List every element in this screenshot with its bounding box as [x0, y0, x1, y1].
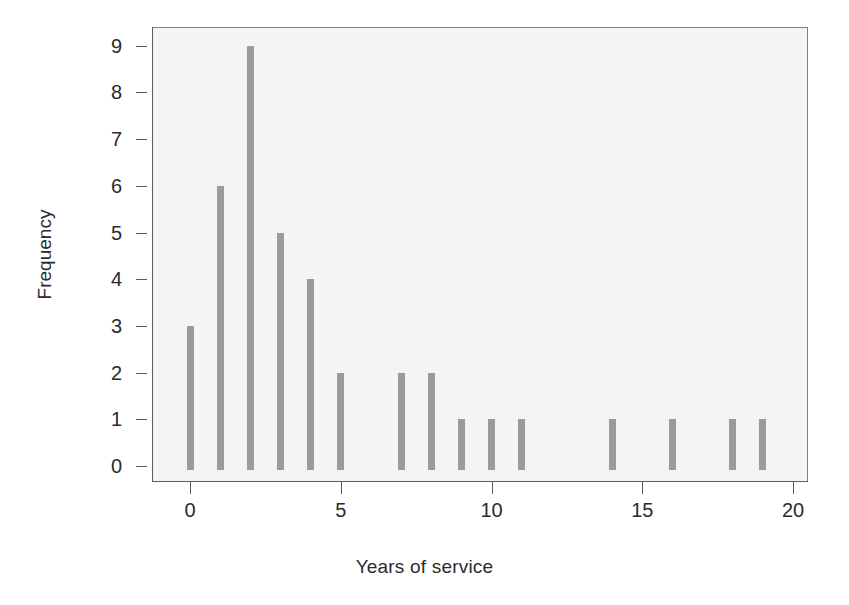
y-axis-tick-label: 4: [96, 269, 122, 289]
x-axis-line: [152, 481, 808, 482]
y-axis-tick: [136, 466, 147, 467]
x-axis-tick: [793, 482, 794, 494]
x-axis-tick-label: 15: [620, 500, 664, 520]
y-axis-tick-label: 7: [96, 129, 122, 149]
x-axis-tick-label: 10: [470, 500, 514, 520]
y-axis-tick: [136, 139, 147, 140]
y-axis-tick-label: 0: [96, 456, 122, 476]
y-axis-tick: [136, 233, 147, 234]
x-axis-tick-label: 0: [168, 500, 212, 520]
y-axis-tick: [136, 326, 147, 327]
x-axis-tick: [341, 482, 342, 494]
y-axis-tick-label: 5: [96, 223, 122, 243]
y-axis-tick-label: 6: [96, 176, 122, 196]
x-axis-tick: [492, 482, 493, 494]
y-axis-tick-label: 9: [96, 36, 122, 56]
y-axis-tick: [136, 46, 147, 47]
histogram-figure: 0123456789 05101520 Years of service Fre…: [0, 0, 849, 605]
y-axis-label-wrapper: Frequency: [30, 27, 60, 482]
y-axis-label: Frequency: [30, 27, 60, 482]
y-axis-tick-label: 1: [96, 409, 122, 429]
y-axis-tick: [136, 373, 147, 374]
y-axis-tick: [136, 419, 147, 420]
x-axis-tick-label: 5: [319, 500, 363, 520]
y-axis-line: [152, 27, 153, 482]
x-axis-tick: [190, 482, 191, 494]
y-axis-tick: [136, 279, 147, 280]
y-axis-tick-label: 8: [96, 82, 122, 102]
y-axis-tick: [136, 186, 147, 187]
x-axis-label: Years of service: [0, 556, 849, 578]
y-axis-tick-label: 2: [96, 363, 122, 383]
plot-panel: [152, 27, 808, 482]
y-axis-tick: [136, 92, 147, 93]
x-axis-tick-label: 20: [771, 500, 815, 520]
y-axis-tick-label: 3: [96, 316, 122, 336]
x-axis-tick: [642, 482, 643, 494]
